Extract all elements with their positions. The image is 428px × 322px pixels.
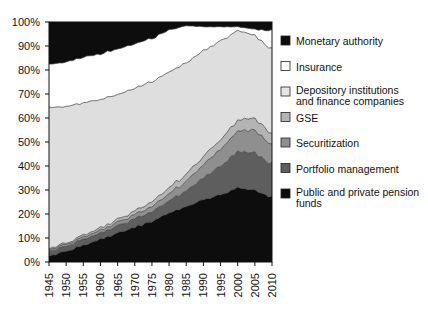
legend-swatch [281, 164, 290, 173]
legend-swatch [281, 189, 290, 198]
y-tick-label: 90% [18, 40, 40, 52]
legend-swatch [281, 62, 290, 71]
stacked-area-chart: 0%10%20%30%40%50%60%70%80%90%100% 194519… [0, 0, 428, 322]
legend-label: Portfolio management [296, 163, 399, 175]
x-tick-label: 1985 [180, 273, 192, 297]
x-tick-label: 1975 [146, 273, 158, 297]
legend-label: GSE [296, 112, 318, 124]
chart-svg: 0%10%20%30%40%50%60%70%80%90%100% 194519… [0, 0, 428, 322]
y-tick-label: 20% [18, 208, 40, 220]
legend-label: Securitization [296, 137, 359, 149]
x-tick-label: 1945 [43, 273, 55, 297]
y-tick-label: 70% [18, 88, 40, 100]
x-tick-label: 1965 [112, 273, 124, 297]
y-tick-label: 80% [18, 64, 40, 76]
y-tick-label: 0% [24, 256, 40, 268]
x-tick-label: 1955 [77, 273, 89, 297]
y-tick-label: 30% [18, 184, 40, 196]
legend-label: funds [296, 197, 322, 209]
x-tick-label: 2000 [232, 273, 244, 297]
x-tick-label: 2005 [249, 273, 261, 297]
legend-label: Monetary authority [296, 35, 384, 47]
legend-swatch [281, 36, 290, 45]
x-tick-label: 2010 [266, 273, 278, 297]
x-axis-tickmarks [49, 262, 272, 266]
x-tick-label: 1980 [163, 273, 175, 297]
legend-label: and finance companies [296, 95, 404, 107]
y-tick-label: 40% [18, 160, 40, 172]
legend-swatch [281, 113, 290, 122]
y-tick-label: 10% [18, 232, 40, 244]
x-tick-label: 1960 [94, 273, 106, 297]
y-tick-label: 50% [18, 136, 40, 148]
legend-label: Insurance [296, 61, 342, 73]
legend-swatch [281, 138, 290, 147]
x-tick-label: 1970 [129, 273, 141, 297]
chart-legend: Monetary authorityInsuranceDepository in… [281, 35, 419, 209]
y-axis-tickmarks [45, 22, 49, 262]
x-tick-label: 1950 [60, 273, 72, 297]
legend-swatch [281, 87, 290, 96]
y-tick-label: 100% [12, 16, 40, 28]
x-tick-label: 1990 [197, 273, 209, 297]
x-tick-label: 1995 [215, 273, 227, 297]
y-axis-labels: 0%10%20%30%40%50%60%70%80%90%100% [12, 16, 40, 268]
x-axis-labels: 1945195019551960196519701975198019851990… [43, 273, 278, 297]
y-tick-label: 60% [18, 112, 40, 124]
